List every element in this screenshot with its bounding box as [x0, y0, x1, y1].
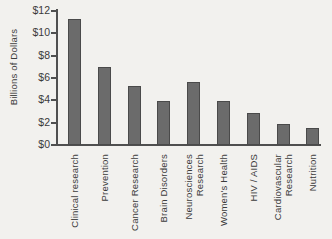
- bar-1: [98, 67, 111, 145]
- y-tick-mark: [51, 144, 57, 146]
- x-label-4: Neurosciences Research: [183, 154, 205, 239]
- x-label-1: Prevention: [99, 154, 110, 239]
- y-tick-mark: [51, 122, 57, 124]
- x-label-3: Brain Disorders: [158, 154, 169, 239]
- y-tick-label: $12: [22, 4, 50, 17]
- y-tick-label: $6: [22, 71, 50, 84]
- funding-bar-chart: Billions of Dollars $0$2$4$6$8$10$12 Cli…: [0, 0, 332, 239]
- y-tick-label: $0: [22, 138, 50, 151]
- bar-4: [187, 82, 200, 145]
- x-label-5: Women's Health: [218, 154, 229, 239]
- y-tick-mark: [51, 55, 57, 57]
- bar-6: [247, 113, 260, 145]
- plot-area: $0$2$4$6$8$10$12 Clinical researchPreven…: [0, 0, 332, 239]
- x-label-8: Nutrition: [307, 154, 318, 239]
- bar-0: [68, 19, 81, 145]
- y-tick-mark: [51, 77, 57, 79]
- y-tick-label: $10: [22, 26, 50, 39]
- y-tick-mark: [51, 10, 57, 12]
- y-tick-label: $4: [22, 93, 50, 106]
- x-label-0: Clinical research: [69, 154, 80, 239]
- x-label-6: HIV / AIDS: [248, 154, 259, 239]
- y-tick-mark: [51, 32, 57, 34]
- bar-3: [157, 101, 170, 145]
- y-tick-label: $8: [22, 49, 50, 62]
- y-tick-label: $2: [22, 116, 50, 129]
- bar-2: [128, 86, 141, 145]
- bar-7: [277, 124, 290, 145]
- x-label-2: Cancer Research: [129, 154, 140, 239]
- bar-8: [306, 128, 319, 145]
- x-label-7: Cardiovascular Research: [272, 154, 294, 239]
- bar-5: [217, 101, 230, 145]
- y-tick-mark: [51, 99, 57, 101]
